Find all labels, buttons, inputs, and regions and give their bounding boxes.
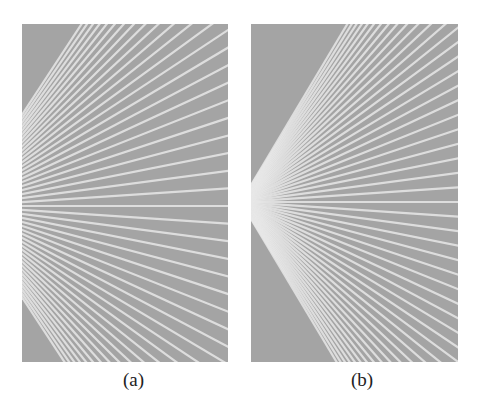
panel-a-radial-lines — [22, 24, 228, 362]
panel-b-radial-lines — [251, 24, 458, 362]
caption-a: (a) — [123, 369, 144, 391]
radial-lines-pattern-a — [22, 24, 228, 362]
radial-lines-pattern-b — [251, 24, 458, 362]
caption-b: (b) — [351, 369, 373, 391]
